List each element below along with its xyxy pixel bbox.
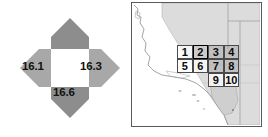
grid-cell-10[interactable]: 10 bbox=[224, 73, 240, 87]
grid-cell-9[interactable]: 9 bbox=[208, 73, 224, 87]
grid-cell-2[interactable]: 2 bbox=[193, 45, 209, 59]
figure-root: 16.1 16.3 16.6 bbox=[0, 0, 268, 137]
grid-cell-label: 1 bbox=[182, 46, 188, 58]
map-panel[interactable]: 12345678910 bbox=[131, 2, 262, 127]
grid-cell-1[interactable]: 1 bbox=[177, 45, 193, 59]
grid-cell-label: 5 bbox=[182, 60, 188, 72]
grid-cell-4[interactable]: 4 bbox=[224, 45, 240, 59]
grid-cell-label: 8 bbox=[228, 60, 234, 72]
grid-cell-5[interactable]: 5 bbox=[177, 59, 193, 73]
grid-cell-3[interactable]: 3 bbox=[208, 45, 224, 59]
compass-rose: 16.1 16.3 16.6 bbox=[18, 16, 122, 120]
grid-cell-6[interactable]: 6 bbox=[193, 59, 209, 73]
numbered-grid-overlay: 12345678910 bbox=[132, 3, 262, 127]
grid-cell-label: 7 bbox=[213, 60, 219, 72]
grid-cell-label: 4 bbox=[228, 46, 234, 58]
grid-cell-7[interactable]: 7 bbox=[208, 59, 224, 73]
arrow-south-value: 16.6 bbox=[53, 86, 75, 98]
grid-cell-label: 9 bbox=[213, 74, 219, 86]
grid-cell-label: 3 bbox=[213, 46, 219, 58]
grid-cell-label: 10 bbox=[225, 74, 237, 86]
arrow-west-value: 16.1 bbox=[22, 60, 44, 72]
grid-cell-8[interactable]: 8 bbox=[224, 59, 240, 73]
grid-cell-label: 6 bbox=[197, 60, 203, 72]
arrow-east-value: 16.3 bbox=[80, 60, 102, 72]
grid-cell-label: 2 bbox=[197, 46, 203, 58]
